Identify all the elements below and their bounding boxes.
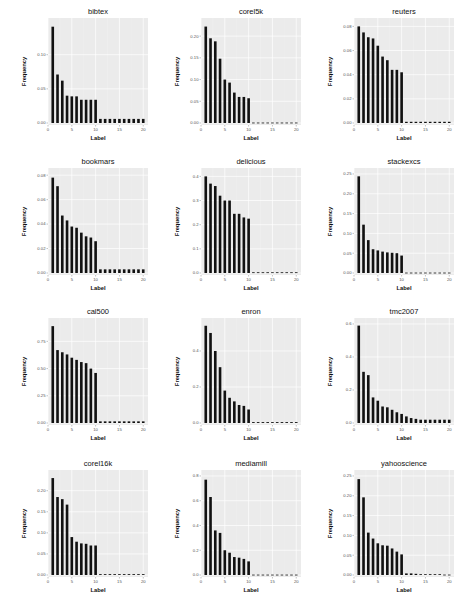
x-tick-label: 20: [447, 127, 452, 132]
bar: [415, 419, 418, 423]
bar: [71, 96, 74, 123]
bar: [104, 421, 107, 423]
bar: [75, 542, 78, 575]
bar: [252, 575, 255, 576]
bar: [429, 122, 432, 123]
chart-panel-yahooscience: 0.000.050.100.150.200.2505101520yahoosci…: [306, 452, 456, 602]
bar: [238, 405, 241, 423]
bar: [357, 479, 360, 575]
y-tick-label: 0.50: [37, 366, 46, 371]
bar: [243, 406, 246, 423]
bar: [271, 422, 274, 423]
bar: [247, 561, 250, 575]
bar: [204, 27, 207, 123]
y-axis-label: Frequency: [327, 356, 333, 386]
x-tick-label: 10: [399, 427, 404, 432]
bar: [443, 420, 446, 423]
bar: [104, 119, 107, 123]
y-axis-label: Frequency: [174, 56, 180, 86]
y-axis-label: Frequency: [21, 206, 27, 236]
y-tick-label: 0.2: [193, 548, 199, 553]
bar: [104, 574, 107, 575]
x-tick-label: 20: [141, 579, 146, 584]
y-tick-label: 0.06: [343, 48, 352, 53]
bar: [434, 273, 437, 274]
x-axis-label: Label: [396, 285, 412, 291]
bar: [262, 272, 265, 273]
y-axis-label: Frequency: [174, 508, 180, 538]
bar: [51, 478, 54, 575]
bar: [224, 550, 227, 575]
y-axis-label: Frequency: [21, 508, 27, 538]
bar: [429, 420, 432, 423]
y-tick-label: 0.05: [190, 99, 199, 104]
bar: [386, 60, 389, 123]
bar: [90, 545, 93, 575]
bar: [381, 252, 384, 273]
bar: [142, 421, 145, 423]
bar: [276, 123, 279, 124]
bar: [276, 272, 279, 273]
y-tick-label: 0.10: [343, 533, 352, 538]
bar: [419, 273, 422, 274]
bar: [396, 552, 399, 575]
y-tick-label: 0.4: [193, 523, 199, 528]
x-tick-label: 0: [200, 579, 203, 584]
bar: [443, 273, 446, 274]
chart-title: stackexcs: [388, 157, 421, 166]
bar: [71, 227, 74, 273]
chart-title: corel5k: [239, 7, 263, 16]
bar: [281, 123, 284, 124]
bar: [415, 273, 418, 274]
bar-chart: 0.000.050.100.150.2005101520corel5kLabel…: [153, 0, 303, 150]
chart-title: tmc2007: [390, 307, 419, 316]
bar: [285, 123, 288, 124]
x-tick-label: 15: [117, 579, 122, 584]
y-tick-label: 0.00: [37, 572, 46, 577]
bar: [113, 421, 116, 423]
bar: [266, 272, 269, 273]
bar: [90, 369, 93, 423]
bar: [85, 363, 88, 423]
y-tick-label: 0.3: [193, 198, 199, 203]
bar-chart: 0.000.050.100.150.2005101520corel16kLabe…: [0, 452, 150, 602]
bar: [219, 59, 222, 123]
bar: [391, 253, 394, 273]
bar: [357, 326, 360, 423]
bar: [99, 269, 102, 273]
bar: [61, 81, 64, 123]
y-tick-label: 0.0: [193, 572, 199, 577]
x-tick-label: 10: [93, 579, 98, 584]
y-tick-label: 0.25: [37, 393, 46, 398]
y-tick-label: 0.10: [37, 530, 46, 535]
y-tick-label: 0.02: [37, 246, 46, 251]
bar: [137, 269, 140, 273]
y-tick-label: 0.02: [343, 96, 352, 101]
bar: [381, 406, 384, 423]
y-tick-label: 0.00: [37, 420, 46, 425]
bar: [238, 97, 241, 123]
bar: [419, 122, 422, 123]
y-tick-label: 0.15: [37, 509, 46, 514]
y-axis-label: Frequency: [174, 206, 180, 236]
bar: [400, 414, 403, 423]
bar: [386, 546, 389, 575]
bar: [90, 100, 93, 123]
y-tick-label: 0.00: [343, 572, 352, 577]
x-tick-label: 10: [93, 127, 98, 132]
bar: [132, 421, 135, 423]
x-tick-label: 10: [246, 127, 251, 132]
bar: [209, 38, 212, 123]
bar: [142, 574, 145, 575]
bar: [290, 123, 293, 124]
bar: [224, 201, 227, 273]
x-tick-label: 5: [224, 127, 227, 132]
chart-panel-stackexcs: 0.000.050.100.150.200.2505101520stackexc…: [306, 150, 456, 300]
x-tick-label: 15: [117, 427, 122, 432]
y-tick-label: 0.2: [193, 384, 199, 389]
bar: [61, 216, 64, 273]
bar: [109, 119, 112, 123]
y-tick-label: 0.6: [193, 498, 199, 503]
bar: [438, 420, 441, 423]
bar-chart: 0.000.050.100.150.200.2505101520yahoosci…: [306, 452, 456, 602]
